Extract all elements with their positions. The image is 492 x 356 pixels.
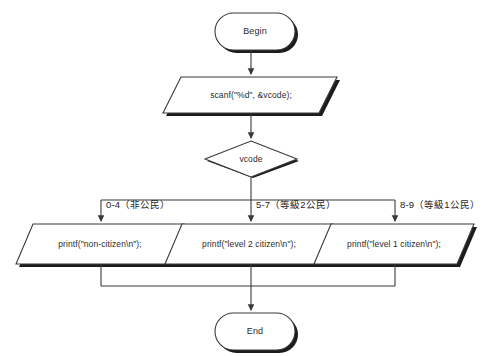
input-statement-label: scanf("%d", &vcode);	[210, 91, 292, 100]
shape-shadows	[19, 16, 475, 353]
branch-label-left: 0-4（非公民）	[106, 200, 171, 210]
decision-variable-label: vcode	[239, 155, 262, 164]
output-mid-statement-label: printf("level 2 citizen\n");	[202, 240, 296, 249]
begin-terminator-label: Begin	[243, 27, 267, 36]
shape-bodies	[16, 13, 474, 350]
output-left-statement-label: printf("non-citizen\n");	[58, 240, 142, 249]
branch-label-mid: 5-7（等級2公民）	[256, 200, 336, 210]
output-right-statement-label: printf("level 1 citizen\n");	[347, 240, 441, 249]
flowchart-graphics	[0, 0, 492, 356]
flowchart-canvas: Begin scanf("%d", &vcode); vcode 0-4（非公民…	[0, 0, 492, 356]
branch-label-right: 8-9（等級1公民）	[400, 200, 480, 210]
end-terminator-label: End	[247, 327, 263, 336]
